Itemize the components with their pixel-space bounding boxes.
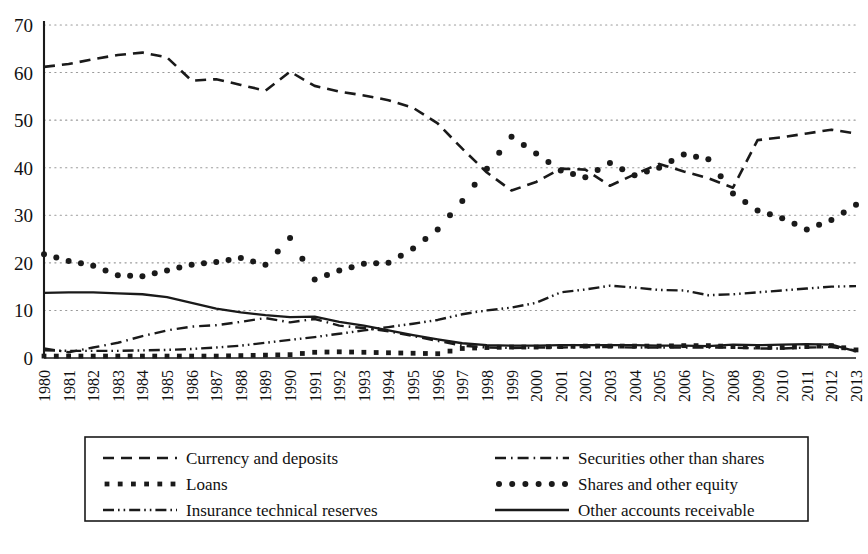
series-marker [214, 354, 219, 359]
series-marker [460, 346, 465, 351]
x-tick-label: 1980 [36, 370, 53, 402]
x-tick-label: 2005 [651, 370, 668, 402]
legend-marker-sample [157, 482, 162, 487]
series-line [44, 292, 856, 351]
series-marker [767, 211, 773, 217]
series-marker [251, 353, 256, 358]
legend-marker-sample [131, 482, 136, 487]
series-marker [398, 351, 403, 356]
data-series-group [41, 53, 859, 359]
series-marker [263, 353, 268, 358]
x-tick-label: 1987 [208, 370, 225, 402]
series-marker [275, 248, 281, 254]
series-marker [705, 156, 711, 162]
series-marker [398, 253, 404, 259]
series-marker [238, 255, 244, 261]
x-tick-label: 1998 [479, 370, 496, 402]
series-marker [681, 151, 687, 157]
series-marker [447, 212, 453, 218]
x-tick-label: 1990 [282, 370, 299, 402]
series-marker [300, 351, 305, 356]
series-marker [632, 172, 638, 178]
series-marker [422, 236, 428, 242]
y-tick-label: 70 [14, 15, 33, 36]
series-marker [374, 350, 379, 355]
series-marker [128, 354, 133, 359]
x-tick-label: 1989 [257, 370, 274, 402]
legend-marker-sample [171, 482, 176, 487]
series-marker [386, 350, 391, 355]
series-marker [152, 270, 158, 276]
legend-marker-sample [562, 481, 568, 487]
series-marker [582, 174, 588, 180]
legend-marker-sample [105, 482, 110, 487]
series-marker [742, 199, 748, 205]
x-tick-label: 1993 [356, 370, 373, 402]
series-marker [288, 352, 293, 357]
series-marker [78, 260, 84, 266]
series-marker [152, 354, 157, 359]
series-marker [238, 353, 243, 358]
series-marker [189, 354, 194, 359]
series-marker [213, 259, 219, 265]
series-marker [484, 166, 490, 172]
y-tick-label: 30 [14, 205, 33, 226]
series-marker [66, 354, 71, 359]
series-marker [755, 208, 761, 214]
series-marker [54, 354, 59, 359]
series-marker [115, 354, 120, 359]
series-marker [472, 182, 478, 188]
series-marker [435, 351, 440, 356]
series-marker [177, 354, 182, 359]
series-marker [91, 354, 96, 359]
x-tick-label: 2004 [627, 370, 644, 402]
series-marker [730, 190, 736, 196]
y-tick-label: 10 [14, 300, 33, 321]
series-marker [448, 349, 453, 354]
series-marker [816, 222, 822, 228]
x-tick-label: 1996 [430, 370, 447, 402]
series-marker [201, 260, 207, 266]
series-marker [349, 350, 354, 355]
series-marker [459, 198, 465, 204]
series-marker [718, 173, 724, 179]
series-marker [607, 160, 613, 166]
legend-marker-sample [509, 481, 515, 487]
x-tick-label: 1991 [307, 370, 324, 402]
legend-label: Securities other than shares [578, 449, 764, 468]
series-currency-and-deposits [44, 53, 856, 191]
legend-marker-sample [496, 481, 502, 487]
series-marker [189, 262, 195, 268]
series-marker [337, 349, 342, 354]
y-tick-label: 40 [14, 158, 33, 179]
series-marker [841, 209, 847, 215]
series-marker [693, 154, 699, 160]
x-tick-label: 2001 [553, 370, 570, 402]
x-tick-label: 1995 [405, 370, 422, 402]
x-tick-label: 1988 [233, 370, 250, 402]
series-marker [828, 217, 834, 223]
y-tick-label: 0 [24, 348, 34, 369]
series-marker [570, 171, 576, 177]
series-marker [312, 277, 318, 283]
series-other-accounts-receivable [44, 292, 856, 351]
series-marker [545, 159, 551, 165]
series-marker [385, 260, 391, 266]
series-marker [410, 246, 416, 252]
x-tick-label: 1997 [454, 370, 471, 402]
series-marker [668, 158, 674, 164]
series-marker [79, 354, 84, 359]
x-tick-label: 2010 [774, 370, 791, 402]
x-tick-label: 1981 [61, 370, 78, 402]
series-marker [127, 273, 133, 279]
legend-marker-sample [522, 481, 528, 487]
series-marker [140, 354, 145, 359]
series-marker [779, 215, 785, 221]
x-tick-label: 2006 [676, 370, 693, 402]
series-marker [202, 354, 207, 359]
series-marker [521, 142, 527, 148]
legend-marker-sample [118, 482, 123, 487]
series-marker [164, 267, 170, 273]
series-marker [115, 272, 121, 278]
x-tick-label: 1999 [504, 370, 521, 402]
